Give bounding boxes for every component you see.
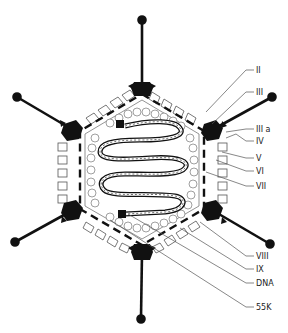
label-protein-v: V — [256, 154, 261, 163]
label-protein-vi: VI — [256, 167, 264, 176]
label-55k: 55K — [256, 303, 271, 312]
label-protein-iiia: III a — [256, 125, 271, 134]
terminal-protein-top — [116, 120, 124, 128]
label-penton-iii: III — [256, 88, 263, 97]
label-hexon-ii: II — [256, 66, 261, 75]
adenovirus-diagram — [0, 0, 288, 333]
label-protein-ix: IX — [256, 265, 264, 274]
label-protein-viii: VIII — [256, 252, 269, 261]
label-protein-vii: VII — [256, 182, 266, 191]
label-fiber-iv: IV — [256, 137, 264, 146]
dna-strand — [100, 122, 186, 214]
terminal-protein-bottom — [118, 210, 126, 218]
fibers — [12, 17, 276, 323]
leader-lines — [110, 70, 254, 307]
label-dna: DNA — [256, 279, 274, 288]
